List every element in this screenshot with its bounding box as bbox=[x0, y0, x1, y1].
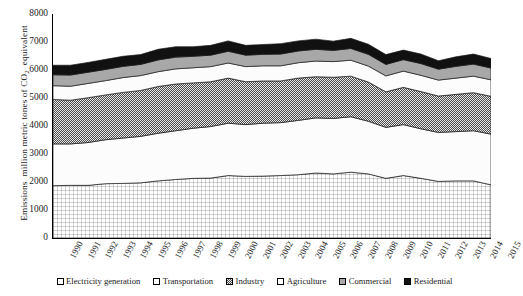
legend-item-transportation[interactable]: Transportation bbox=[153, 276, 213, 286]
legend-item-agriculture[interactable]: Agriculture bbox=[277, 276, 326, 286]
x-tick-label: 1996 bbox=[174, 240, 190, 260]
x-tick-label: 2005 bbox=[331, 240, 347, 260]
checker-swatch bbox=[226, 278, 233, 285]
x-tick-label: 1999 bbox=[226, 240, 242, 260]
legend-item-label: Industry bbox=[236, 276, 265, 286]
x-tick-label: 2011 bbox=[436, 240, 452, 260]
chart-legend: Electricity generationTransportationIndu… bbox=[0, 276, 509, 286]
y-tick-label: 0 bbox=[4, 233, 48, 242]
legend-item-label: Transportation bbox=[163, 276, 213, 286]
x-tick-label: 1992 bbox=[104, 240, 120, 260]
x-tick-label: 1997 bbox=[191, 240, 207, 260]
empty-swatch bbox=[277, 278, 284, 285]
x-tick-label: 2000 bbox=[244, 240, 260, 260]
x-tick-label: 2015 bbox=[507, 240, 523, 260]
x-tick-label: 1991 bbox=[86, 240, 102, 260]
legend-item-industry[interactable]: Industry bbox=[226, 276, 264, 286]
x-tick-label: 1994 bbox=[139, 240, 155, 260]
y-tick-label: 6000 bbox=[4, 65, 48, 74]
y-tick-label: 4000 bbox=[4, 121, 48, 130]
plot-area bbox=[52, 14, 491, 239]
x-tick-label: 2008 bbox=[384, 240, 400, 260]
stacked-area-bands bbox=[53, 38, 491, 238]
y-tick-label: 2000 bbox=[4, 177, 48, 186]
legend-item-label: Agriculture bbox=[287, 276, 327, 286]
x-tick-label: 2009 bbox=[401, 240, 417, 260]
plot-svg bbox=[53, 14, 491, 238]
legend-item-label: Commercial bbox=[349, 276, 391, 286]
x-tick-label: 2010 bbox=[419, 240, 435, 260]
x-tick-label: 1998 bbox=[209, 240, 225, 260]
legend-item-commercial[interactable]: Commercial bbox=[339, 276, 391, 286]
empty-swatch bbox=[153, 278, 160, 285]
x-tick-label: 1993 bbox=[121, 240, 137, 260]
black-swatch bbox=[404, 278, 411, 285]
y-tick-label: 5000 bbox=[4, 93, 48, 102]
x-tick-label: 2004 bbox=[314, 240, 330, 260]
legend-item-label: Residential bbox=[414, 276, 453, 286]
fine-grid-swatch bbox=[57, 278, 64, 285]
y-tick-label: 3000 bbox=[4, 149, 48, 158]
y-tick-label: 7000 bbox=[4, 37, 48, 46]
x-tick-label: 2006 bbox=[349, 240, 365, 260]
y-axis-tick-labels: 010002000300040005000600070008000 bbox=[0, 0, 48, 252]
y-tick-label: 8000 bbox=[4, 9, 48, 18]
x-tick-label: 1995 bbox=[156, 240, 172, 260]
x-tick-label: 2014 bbox=[489, 240, 505, 260]
x-tick-label: 2002 bbox=[279, 240, 295, 260]
legend-item-label: Electricity generation bbox=[66, 276, 140, 286]
x-tick-label: 2007 bbox=[366, 240, 382, 260]
x-tick-label: 2001 bbox=[261, 240, 277, 260]
legend-item-electricity-generation[interactable]: Electricity generation bbox=[57, 276, 141, 286]
gray-swatch bbox=[339, 278, 346, 285]
x-axis-tick-labels: 1990199119921993199419951996199719981999… bbox=[52, 240, 494, 274]
legend-item-residential[interactable]: Residential bbox=[404, 276, 452, 286]
x-tick-label: 2012 bbox=[454, 240, 470, 260]
x-tick-label: 2013 bbox=[472, 240, 488, 260]
x-tick-label: 2003 bbox=[296, 240, 312, 260]
y-tick-label: 1000 bbox=[4, 205, 48, 214]
x-tick-label: 1990 bbox=[69, 240, 85, 260]
